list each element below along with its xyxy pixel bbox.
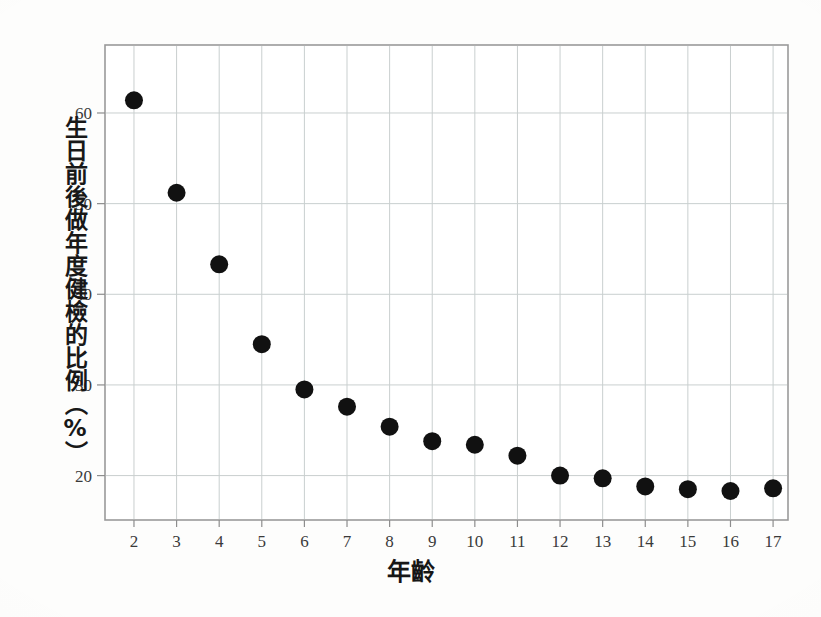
x-tick-label: 4 <box>215 532 224 551</box>
x-tick-label: 8 <box>385 532 394 551</box>
x-tick-label: 17 <box>765 532 783 551</box>
data-point <box>423 432 441 450</box>
x-axis-title: 年齡 <box>0 552 821 587</box>
chart-figure: 234567891011121314151617 2030405060 生日前後… <box>0 0 821 617</box>
x-tick-label: 3 <box>172 532 181 551</box>
y-axis-title: 生日前後做年度健檢的比例（%） <box>44 110 86 470</box>
data-point <box>679 480 697 498</box>
data-point <box>636 477 654 495</box>
data-point <box>253 335 271 353</box>
x-tick-label: 14 <box>637 532 655 551</box>
x-tick-label: 2 <box>130 532 139 551</box>
data-point <box>764 479 782 497</box>
x-tick-label: 13 <box>594 532 611 551</box>
data-point <box>508 447 526 465</box>
x-tick-label: 5 <box>258 532 267 551</box>
data-point <box>168 184 186 202</box>
x-tick-label: 12 <box>552 532 569 551</box>
data-point <box>551 467 569 485</box>
data-point <box>295 380 313 398</box>
x-tick-label: 11 <box>509 532 525 551</box>
data-point <box>381 418 399 436</box>
data-point <box>338 398 356 416</box>
data-point <box>721 482 739 500</box>
data-point <box>466 436 484 454</box>
x-tick-label: 7 <box>343 532 352 551</box>
x-axis-ticks <box>134 520 773 527</box>
x-tick-label: 9 <box>428 532 437 551</box>
data-point <box>594 469 612 487</box>
x-tick-label: 15 <box>679 532 696 551</box>
x-tick-label: 6 <box>300 532 309 551</box>
x-tick-label: 10 <box>466 532 483 551</box>
y-axis-ticks <box>97 113 105 476</box>
scatter-plot-canvas: 234567891011121314151617 2030405060 <box>0 0 821 617</box>
x-axis-tick-labels: 234567891011121314151617 <box>130 532 782 551</box>
plot-background <box>105 45 788 520</box>
data-point <box>125 91 143 109</box>
x-tick-label: 16 <box>722 532 739 551</box>
data-point <box>210 255 228 273</box>
